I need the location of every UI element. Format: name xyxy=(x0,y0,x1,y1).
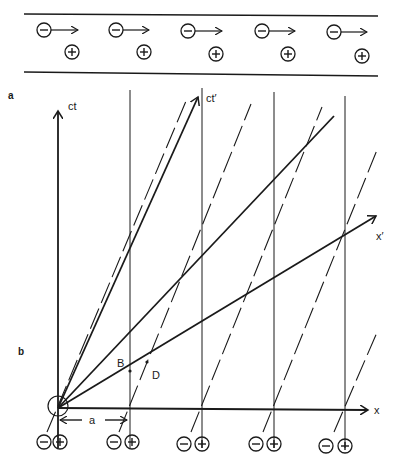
ct-prime-axis-label: ct′ xyxy=(206,92,217,104)
x-axis xyxy=(58,408,368,410)
panel-a-label: a xyxy=(8,90,14,101)
x-axis-label: x xyxy=(374,404,380,416)
positive-charge xyxy=(355,49,369,63)
positive-charge xyxy=(137,45,151,59)
positive-charge xyxy=(65,45,79,59)
wire-top-boundary xyxy=(24,14,378,16)
positive-charge xyxy=(281,47,295,61)
negative-worldline xyxy=(191,107,322,432)
diagonal-line xyxy=(58,116,334,408)
positive-charge xyxy=(209,47,223,61)
charge-pair xyxy=(249,437,281,451)
negative-charge xyxy=(255,24,295,38)
x-prime-axis xyxy=(58,216,376,408)
panel-a: a xyxy=(8,14,378,101)
point-b-marker xyxy=(128,369,131,372)
negative-worldline xyxy=(47,101,186,432)
spacing-label: a xyxy=(89,414,96,426)
negative-worldline xyxy=(263,150,377,432)
charge-pair xyxy=(319,439,352,453)
point-b-label: B xyxy=(117,357,124,369)
charge-pair xyxy=(107,435,139,449)
ct-prime-axis xyxy=(58,97,198,408)
negative-charge xyxy=(37,23,78,37)
wire-bottom-boundary xyxy=(24,72,378,76)
negative-charge xyxy=(327,25,367,39)
charge-pair xyxy=(177,437,209,451)
negative-charge xyxy=(181,24,222,38)
charge-pair xyxy=(37,435,67,449)
point-d-label: D xyxy=(152,369,160,381)
point-d-marker xyxy=(145,360,148,363)
negative-worldline xyxy=(119,104,251,432)
negative-worldline xyxy=(334,330,378,432)
x-prime-axis-label: x′ xyxy=(376,230,384,242)
panel-b: b ct x ct′ x′ B D xyxy=(18,88,384,453)
panel-b-label: b xyxy=(18,346,24,357)
negative-charge xyxy=(109,23,149,37)
spacetime-diagram-figure: a b ct x ct′ x′ xyxy=(0,0,398,472)
ct-axis-label: ct xyxy=(68,100,77,112)
